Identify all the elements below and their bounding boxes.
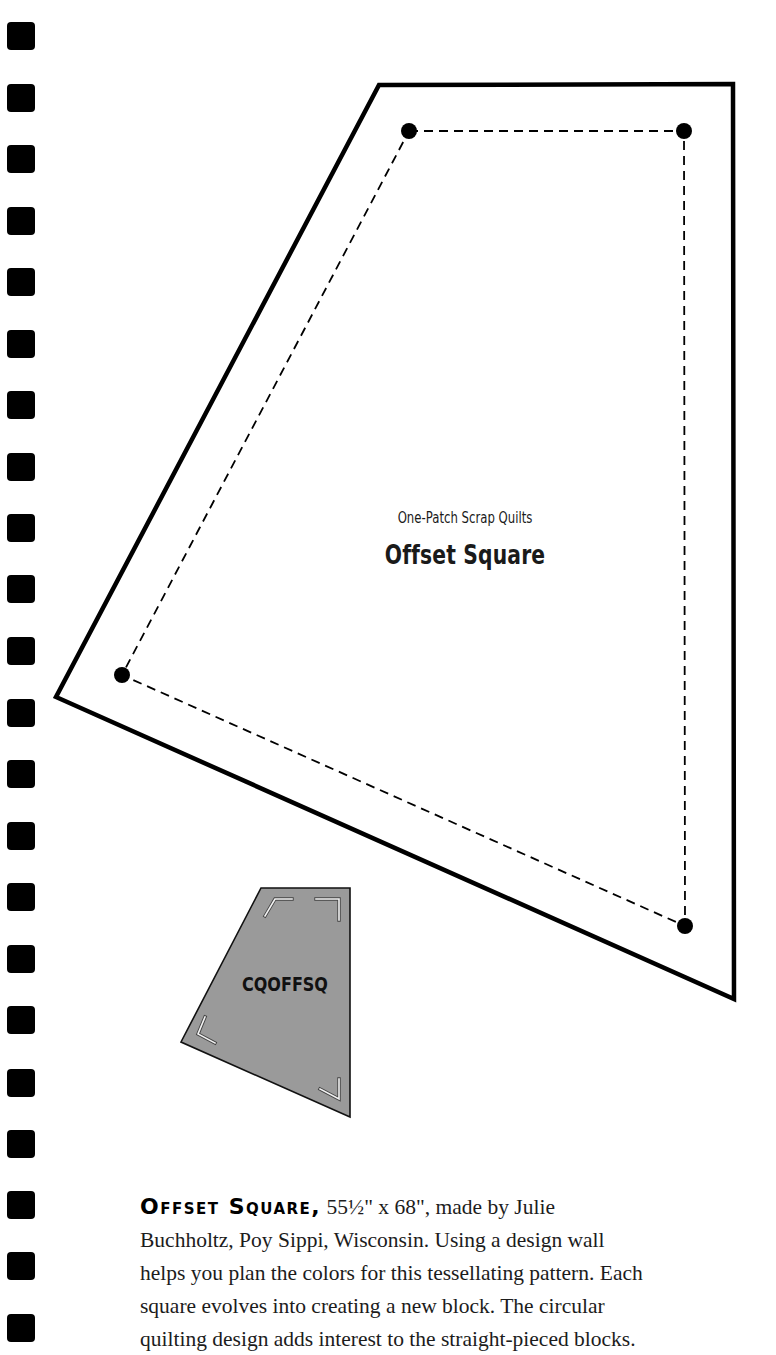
caption-line: Buchholtz, Poy Sippi, Wisconsin. Using a…	[140, 1224, 776, 1257]
seam-corner-dot	[401, 123, 417, 139]
caption-line: Offset Square, 55½" x 68", made by Julie	[140, 1190, 776, 1224]
caption-text: 55½" x 68", made by Julie	[321, 1195, 555, 1219]
template-block-name: Offset Square	[368, 540, 563, 570]
template-series-label: One-Patch Scrap Quilts	[368, 509, 563, 527]
caption-line: square evolves into creating a new block…	[140, 1290, 776, 1323]
thumbnail-block	[181, 888, 350, 1117]
seam-corner-dot	[114, 667, 130, 683]
seam-corner-dot	[676, 123, 692, 139]
thumbnail-code-label: CQOFFSQ	[237, 972, 333, 996]
template-seam-line	[122, 131, 685, 926]
caption: Offset Square, 55½" x 68", made by Julie…	[140, 1190, 776, 1355]
caption-line: helps you plan the colors for this tesse…	[140, 1257, 776, 1290]
seam-corner-dot	[677, 918, 693, 934]
caption-title: Offset Square,	[140, 1194, 321, 1219]
caption-line: quilting design adds interest to the str…	[140, 1323, 776, 1355]
